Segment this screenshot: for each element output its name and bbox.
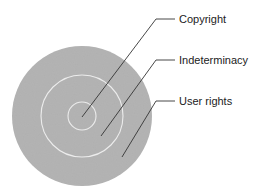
label-copyright: Copyright [179, 13, 226, 25]
label-user-rights: User rights [179, 95, 232, 107]
outer-circle-user-rights [12, 46, 152, 186]
label-indeterminacy: Indeterminacy [179, 54, 248, 66]
